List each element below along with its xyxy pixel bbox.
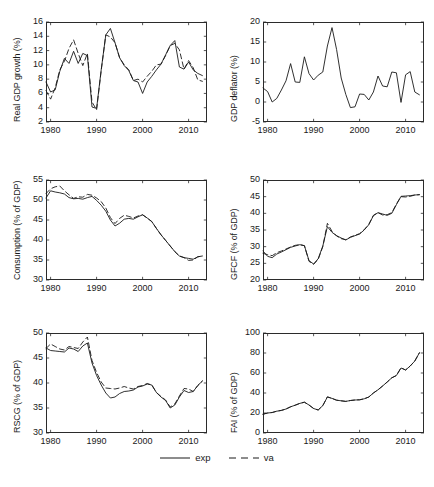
plot-area: [263, 333, 424, 433]
legend-line-swatch-solid: [160, 454, 190, 462]
series-line-va: [263, 353, 419, 414]
series-line-exp: [263, 353, 419, 414]
x-tick-label: 2010: [389, 436, 423, 446]
y-tick-label: 100: [234, 327, 260, 337]
x-tick-label: 1980: [251, 436, 285, 446]
legend-line-swatch-dashed: [229, 454, 259, 462]
legend-label: va: [264, 452, 274, 463]
figure-multipanel-chart: 2468101214161980199020002010Real GDP gro…: [0, 0, 434, 487]
x-tick-label: 2000: [343, 436, 377, 446]
panel-fai-share: 0204060801001980199020002010FAI (% of GD…: [0, 0, 434, 487]
chart-legend: expva: [0, 452, 434, 463]
tick-marks: [263, 333, 424, 433]
legend-entry-va: va: [229, 452, 274, 463]
legend-label: exp: [195, 452, 210, 463]
y-axis-label: FAI (% of GDP): [229, 372, 239, 433]
x-tick-label: 1990: [297, 436, 331, 446]
y-tick-label: 80: [234, 347, 260, 357]
legend-entry-exp: exp: [160, 452, 210, 463]
